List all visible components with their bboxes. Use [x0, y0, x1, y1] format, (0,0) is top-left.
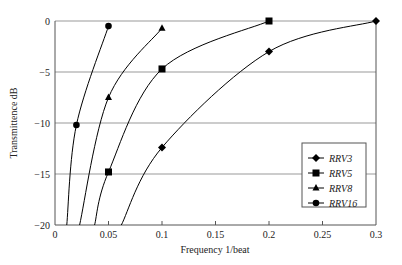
x-tick-label: 0.1	[156, 229, 169, 240]
x-tick-label: 0.3	[370, 229, 383, 240]
series-rrv5	[95, 18, 273, 226]
legend-label: RRV16	[328, 198, 357, 209]
series-rrv8	[80, 24, 166, 225]
y-tick-labels: 0−5−10−15−20	[34, 16, 50, 231]
transmittance-chart: 00.050.10.150.20.250.3 0−5−10−15−20 Freq…	[0, 0, 402, 265]
circle-icon	[313, 200, 320, 207]
series-rrv16	[67, 23, 112, 225]
y-tick-label: −10	[34, 118, 50, 129]
square-marker	[105, 168, 112, 175]
x-tick-labels: 00.050.10.150.20.250.3	[53, 229, 383, 240]
square-marker	[266, 18, 273, 25]
x-tick-label: 0.2	[263, 229, 276, 240]
triangle-marker	[105, 94, 112, 101]
square-icon	[313, 170, 320, 177]
x-axis-label: Frequency 1/beat	[180, 244, 249, 255]
diamond-marker	[372, 17, 380, 25]
legend-label: RRV8	[328, 183, 352, 194]
y-tick-label: −20	[34, 220, 50, 231]
x-tick-label: 0.15	[207, 229, 225, 240]
diamond-marker	[265, 48, 273, 56]
legend: RRV3RRV5RRV8RRV16	[302, 143, 366, 209]
legend-label: RRV3	[328, 153, 352, 164]
x-tick-label: 0.05	[100, 229, 118, 240]
x-tick-label: 0.25	[314, 229, 332, 240]
circle-marker	[105, 23, 112, 30]
y-tick-label: 0	[45, 16, 50, 27]
y-tick-label: −15	[34, 169, 50, 180]
circle-marker	[73, 122, 80, 129]
y-axis-label: Transmittence dB	[8, 87, 19, 158]
legend-label: RRV5	[328, 168, 352, 179]
y-tick-label: −5	[39, 67, 50, 78]
triangle-marker	[159, 24, 166, 31]
x-tick-label: 0	[53, 229, 58, 240]
x-ticks	[109, 221, 323, 225]
square-marker	[159, 65, 166, 72]
